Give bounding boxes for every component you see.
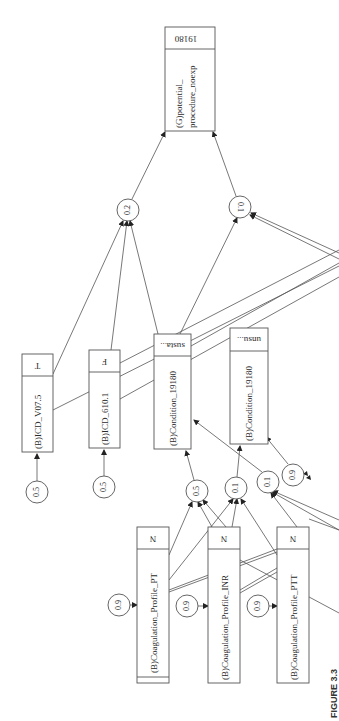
node-state-text: susta... <box>160 341 185 351</box>
node-condition-19180-susta[interactable]: susta... (B)Condition_19180 <box>154 334 191 449</box>
prob-value: 0.5 <box>32 487 41 497</box>
node-label: (B)Coagulation_Profile_PT <box>149 573 159 673</box>
edge-offcanvas-d-to-p01b <box>272 492 339 530</box>
node-icd-v07-5[interactable]: T (B)ICD_V07.5 <box>22 354 53 452</box>
prob-value: 0.5 <box>192 486 201 496</box>
prob-node-condition-susta[interactable]: 0.5 <box>186 480 208 502</box>
prob-value: 0.2 <box>123 205 132 215</box>
node-label: (B)Condition_19180 <box>244 365 254 441</box>
node-condition-19180-unsu[interactable]: unsu... (B)Condition_19180 <box>230 328 268 444</box>
prob-node-coag-pt[interactable]: 0.9 <box>108 594 130 616</box>
prob-node-coag-ptt[interactable]: 0.9 <box>247 595 269 617</box>
diagram-canvas: 19180 (G)potential_ procedure_noexp T (B… <box>0 0 339 721</box>
edge-p09-to-condunsu <box>266 437 288 464</box>
edge-ptt-offcanvas <box>309 519 339 530</box>
edge-pt-to-p05 <box>169 502 192 555</box>
edge-inr-to-p05 <box>198 502 212 527</box>
node-state-text: N <box>149 534 156 544</box>
edge-icd6101-offcanvas-a <box>120 250 339 363</box>
figure-caption: FIGURE 3.3 <box>329 669 339 718</box>
node-state-text: T <box>34 361 40 371</box>
node-label-line2: procedure_noexp <box>187 65 197 128</box>
node-goal-potential-procedure[interactable]: 19180 (G)potential_ procedure_noexp <box>165 27 215 131</box>
prob-value: 0.9 <box>288 470 297 480</box>
prob-node-goal-right[interactable]: 0.1 <box>229 196 251 218</box>
node-label: (B)ICD_V07.5 <box>33 394 43 449</box>
prob-node-condition-unsu[interactable]: 0.1 <box>225 477 247 499</box>
node-label: (B)Coagulation_Profile_PTT <box>289 574 299 680</box>
edge-inr-to-p01 <box>232 499 237 527</box>
node-coagulation-profile-pt[interactable]: N (B)Coagulation_Profile_PT <box>137 527 169 683</box>
node-coagulation-profile-inr[interactable]: N (B)Coagulation_Profile_INR <box>208 527 240 683</box>
prob-node-right[interactable]: 0.9 <box>282 464 304 486</box>
node-state-text: unsu... <box>237 335 261 345</box>
edge-offcanvas-a-to-p01 <box>251 213 339 253</box>
edge-p05-to-condsusta <box>186 451 194 480</box>
edge-inr-to-ptt-a <box>240 568 277 590</box>
arrowhead-fragment <box>306 475 311 480</box>
prob-value: 0.1 <box>263 477 272 487</box>
edge-inr-to-ptt-b <box>240 572 277 593</box>
prob-node-icd-v07-5[interactable]: 0.5 <box>26 481 48 503</box>
node-state-text: N <box>220 534 227 544</box>
edge-offcanvas-c-to-p01b <box>273 491 339 520</box>
node-icd-610-1[interactable]: F (B)ICD_610.1 <box>89 350 120 448</box>
prob-node-goal-left[interactable]: 0.2 <box>117 199 139 221</box>
edge-condsusta-to-p01 <box>180 218 237 334</box>
prob-value: 0.1 <box>236 202 245 212</box>
prob-value: 0.9 <box>182 601 191 611</box>
node-state-text: 19180 <box>174 34 197 44</box>
prob-value: 0.9 <box>114 600 123 610</box>
prob-value: 0.1 <box>231 483 240 493</box>
node-state-text: N <box>289 534 296 544</box>
node-label: (B)Coagulation_Profile_INR <box>220 575 230 680</box>
edge-p01-to-condunsu <box>237 446 240 477</box>
prob-value: 0.9 <box>253 601 262 611</box>
node-state-text: F <box>102 357 107 367</box>
edge-icd6101-to-p02 <box>111 221 127 350</box>
edge-icd6101-offcanvas-b <box>120 277 339 399</box>
edge-condsusta-to-p02 <box>130 221 158 334</box>
prob-node-icd-610-1[interactable]: 0.5 <box>93 476 115 498</box>
edge-p02-to-goal <box>132 132 165 199</box>
node-label: (B)Condition_19180 <box>168 370 178 446</box>
node-label-line1: (G)potential_ <box>174 79 184 128</box>
prob-node-coag-inr[interactable]: 0.9 <box>176 595 198 617</box>
node-label: (B)ICD_610.1 <box>100 393 110 445</box>
prob-value: 0.5 <box>99 482 108 492</box>
edge-ptt-to-p01b <box>271 493 297 527</box>
edge-ptt-to-p01 <box>241 499 277 555</box>
edge-p01-to-goal <box>213 132 236 196</box>
node-coagulation-profile-ptt[interactable]: N (B)Coagulation_Profile_PTT <box>277 527 309 683</box>
prob-node-condition-susta-2[interactable]: 0.1 <box>257 471 279 493</box>
edge-offcanvas-b-to-p01 <box>250 215 339 259</box>
